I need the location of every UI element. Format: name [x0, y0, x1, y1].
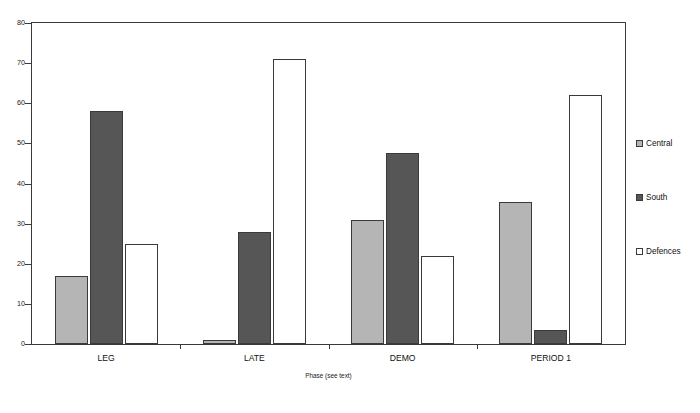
x-category-label: DEMO: [329, 353, 477, 363]
legend-item-south[interactable]: South: [636, 193, 700, 202]
y-tick-label: 40: [17, 180, 25, 187]
bar-slot: [386, 23, 419, 344]
bar-defences-late: [273, 59, 306, 344]
y-tick-label: 60: [17, 100, 25, 107]
x-category-label: LEG: [32, 353, 180, 363]
bar-slot: [351, 23, 384, 344]
x-tick-mark: [180, 344, 181, 349]
x-axis-labels: LEGLATEDEMOPERIOD 1: [32, 353, 625, 363]
bar-central-period-1: [499, 202, 532, 344]
legend-item-defences[interactable]: Defences: [636, 247, 700, 256]
legend-label: Central: [646, 139, 672, 148]
x-tick-mark: [329, 344, 330, 349]
legend-swatch-icon: [636, 248, 643, 255]
bar-slot: [90, 23, 123, 344]
bar-slot: [534, 23, 567, 344]
legend-item-central[interactable]: Central: [636, 139, 700, 148]
legend-label: South: [646, 193, 667, 202]
bar-groups: [32, 23, 625, 344]
chart-legend: CentralSouthDefences: [636, 139, 700, 256]
x-category-label: LATE: [180, 353, 328, 363]
bar-group: [477, 23, 625, 344]
bar-central-demo: [351, 220, 384, 344]
bar-slot: [421, 23, 454, 344]
bar-defences-leg: [125, 244, 158, 344]
bar-slot: [499, 23, 532, 344]
x-category-label: PERIOD 1: [477, 353, 625, 363]
bar-defences-period-1: [569, 95, 602, 344]
y-tick-label: 20: [17, 260, 25, 267]
y-tick-label: 70: [17, 60, 25, 67]
legend-swatch-icon: [636, 140, 643, 147]
x-axis-title: Phase (see text): [32, 372, 625, 380]
y-tick-label: 80: [17, 19, 25, 26]
bar-group: [32, 23, 180, 344]
y-tick-label: 10: [17, 300, 25, 307]
bar-south-late: [238, 232, 271, 344]
bar-slot: [125, 23, 158, 344]
bar-slot: [273, 23, 306, 344]
plot-area: [32, 23, 625, 344]
bar-slot: [238, 23, 271, 344]
bar-south-period-1: [534, 330, 567, 344]
y-tick-label: 30: [17, 220, 25, 227]
bar-group: [329, 23, 477, 344]
x-tick-mark: [477, 344, 478, 349]
bar-slot: [55, 23, 88, 344]
bar-slot: [569, 23, 602, 344]
bar-defences-demo: [421, 256, 454, 344]
bar-south-leg: [90, 111, 123, 344]
bar-slot: [203, 23, 236, 344]
y-axis: 01020304050607080: [0, 0, 31, 413]
bar-chart: 01020304050607080 LEGLATEDEMOPERIOD 1 Ph…: [0, 0, 700, 413]
y-tick-label: 50: [17, 140, 25, 147]
legend-label: Defences: [646, 247, 681, 256]
bar-group: [180, 23, 328, 344]
legend-swatch-icon: [636, 194, 643, 201]
bar-south-demo: [386, 153, 419, 344]
x-axis-ticks: [32, 344, 625, 350]
bar-central-leg: [55, 276, 88, 344]
